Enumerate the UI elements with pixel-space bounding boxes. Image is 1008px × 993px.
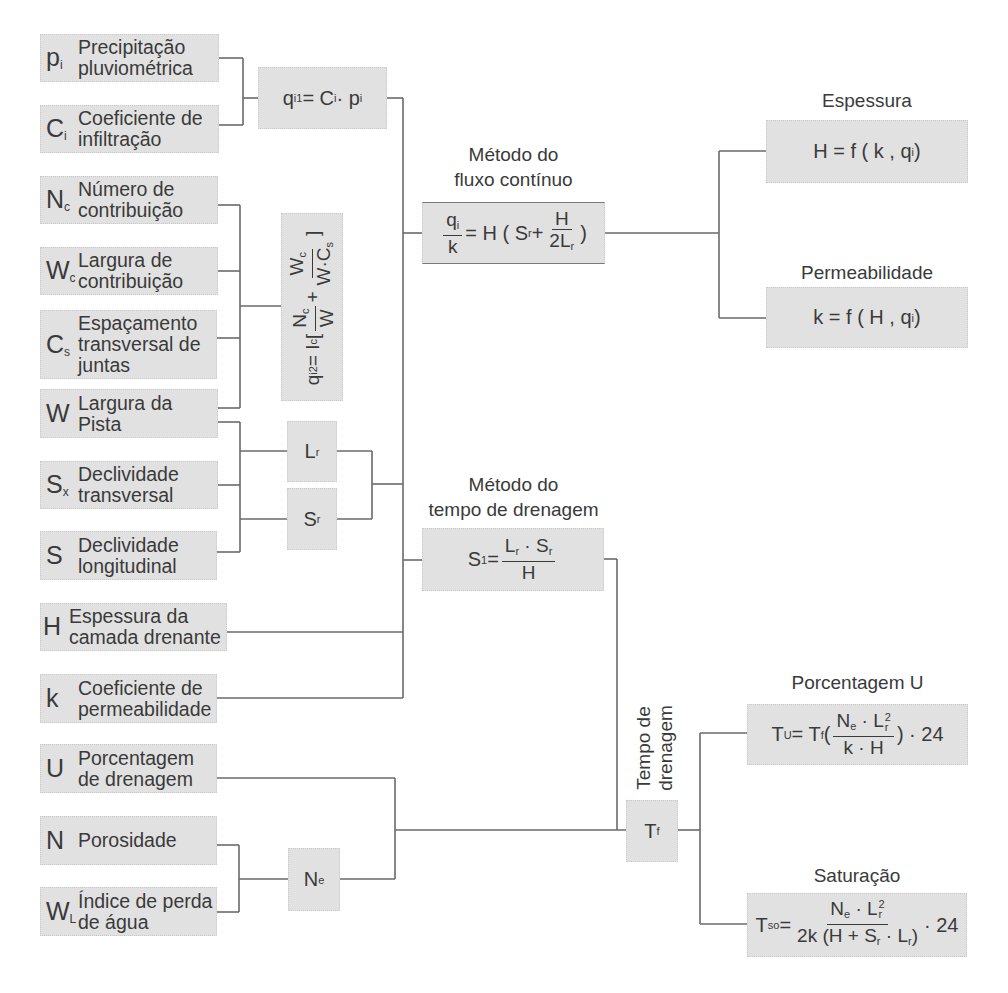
input-precipitacao: pi Precipitaçãopluviométrica (40, 34, 219, 82)
symbol: WL (46, 899, 78, 925)
formula-fluxo-continuo: qik = H ( Sr + H2Lr ) (422, 202, 605, 264)
input-porcentagem-drenagem: U Porcentagemde drenagem (40, 744, 217, 793)
input-declividade-longitudinal: S Declividadelongitudinal (40, 531, 217, 580)
input-label: Declividadetransversal (78, 464, 179, 506)
symbol: Ci (46, 116, 78, 142)
input-label: Número decontribuição (78, 179, 183, 221)
symbol: W (46, 401, 78, 427)
input-label: Precipitaçãopluviométrica (78, 37, 193, 79)
input-porosidade: N Porosidade (40, 816, 217, 865)
output-permeabilidade-title: Permeabilidade (766, 260, 968, 285)
method-fluxo-title: Método dofluxo contínuo (422, 142, 605, 192)
symbol: k (46, 686, 78, 712)
formula-permeabilidade: k = f ( H , qi ) (766, 287, 968, 348)
input-label: Espessura dacamada drenante (69, 606, 221, 648)
symbol: Nc (46, 187, 78, 213)
formula-qi1: qi1 = Ci · pi (258, 67, 387, 129)
formula-tso: Tso = Ne · L2r2k (H + Sr · Lr) · 24 (747, 893, 967, 957)
variable-sr: Sr (287, 488, 337, 550)
symbol: U (46, 756, 78, 782)
input-numero-contribuicao: Nc Número decontribuição (40, 176, 218, 224)
formula-qi2: qi2 = Ic [ NcW + WcW·Cs ] (281, 213, 343, 401)
symbol: S (46, 543, 78, 569)
symbol: Cs (46, 332, 78, 358)
input-largura-contribuicao: Wc Largura decontribuição (40, 247, 218, 295)
formula-espessura: H = f ( k , qi ) (766, 120, 968, 183)
formula-s1: S1 = Lr · SrH (422, 528, 604, 591)
input-espessura-camada: H Espessura dacamada drenante (40, 603, 227, 651)
input-label: Espaçamentotransversal dejuntas (78, 313, 200, 376)
symbol: Sx (46, 472, 78, 498)
input-label: Coeficiente deinfiltração (78, 108, 203, 150)
input-label: Coeficiente depermeabilidade (78, 678, 211, 720)
symbol: N (46, 828, 78, 854)
input-label: Porcentagemde drenagem (78, 748, 194, 790)
symbol: Wc (46, 258, 78, 284)
symbol: H (43, 614, 69, 640)
input-label: Largura decontribuição (78, 250, 183, 292)
formula-qi2-rotated: qi2 = Ic [ NcW + WcW·Cs ] (282, 214, 344, 402)
tf-label: Tempo de drenagem (630, 700, 680, 796)
method-tempo-title: Método dotempo de drenagem (412, 472, 615, 522)
input-largura-pista: W Largura daPista (40, 389, 218, 438)
output-porcentagem-title: Porcentagem U (747, 670, 968, 695)
input-declividade-transversal: Sx Declividadetransversal (40, 461, 218, 509)
variable-ne: Ne (288, 848, 340, 911)
input-label: Porosidade (78, 830, 177, 851)
input-coef-infiltracao: Ci Coeficiente deinfiltração (40, 105, 219, 153)
output-espessura-title: Espessura (766, 88, 968, 113)
formula-tu: TU= Tf( Ne · L2rk · H ) · 24 (747, 704, 968, 765)
input-indice-perda-agua: WL Índice de perdade água (40, 887, 217, 936)
input-label: Declividadelongitudinal (78, 535, 179, 577)
input-label: Índice de perdade água (78, 891, 212, 933)
symbol: pi (46, 45, 78, 71)
output-saturacao-title: Saturação (747, 863, 967, 888)
variable-lr: Lr (287, 421, 337, 482)
input-coef-permeabilidade: k Coeficiente depermeabilidade (40, 674, 217, 723)
input-espacamento-juntas: Cs Espaçamentotransversal dejuntas (40, 310, 217, 379)
input-label: Largura daPista (78, 393, 172, 435)
variable-tf: Tf (626, 800, 678, 862)
